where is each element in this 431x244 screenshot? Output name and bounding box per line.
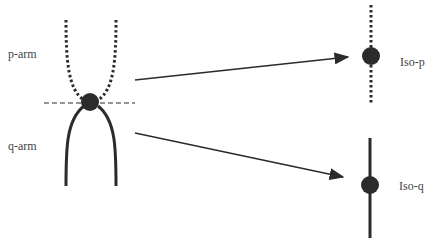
q-arm-chromatid: [66, 106, 116, 186]
q-arm-label: q-arm: [8, 139, 37, 153]
centromere-icon: [81, 93, 99, 111]
iso-p-centromere-icon: [362, 47, 380, 65]
iso-p-label: Iso-p: [400, 55, 425, 69]
arrow-to-iso-p: [135, 57, 348, 80]
iso-q-centromere-icon: [361, 176, 379, 194]
p-arm-chromatid: [66, 20, 116, 100]
iso-q-label: Iso-q: [399, 179, 424, 193]
isochromosome-diagram: p-arm q-arm Iso-p Iso-q: [0, 0, 431, 244]
p-arm-label: p-arm: [8, 47, 37, 61]
arrow-to-iso-q: [135, 133, 343, 177]
